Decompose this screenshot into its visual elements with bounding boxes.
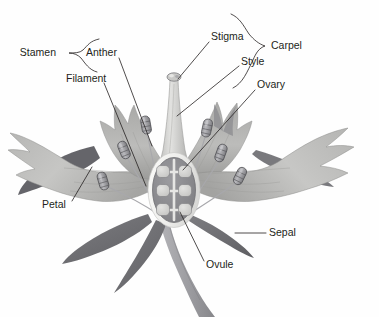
style-leader-line [177,66,239,116]
label-anther: Anther [86,46,117,58]
label-ovule: Ovule [206,258,234,270]
stigma [167,73,181,81]
label-stigma: Stigma [211,30,244,42]
flower-anatomy-diagram: Stamen Anther Filament Stigma Carpel Sty… [0,0,379,317]
label-style: Style [241,55,265,67]
ovary [148,153,200,228]
stigma-leader-line [178,42,209,79]
ovule [157,185,170,197]
label-carpel: Carpel [271,39,302,51]
ovule [157,166,170,178]
flower-diagram-canvas: Stamen Anther Filament Stigma Carpel Sty… [0,0,379,317]
ovule [157,204,170,216]
label-stamen: Stamen [20,46,56,58]
label-petal: Petal [42,198,66,210]
label-sepal: Sepal [269,226,296,238]
ovule [179,185,192,197]
sepal-lower-right [186,214,254,258]
stem [161,225,215,317]
label-filament: Filament [66,72,106,84]
label-ovary: Ovary [257,78,286,90]
